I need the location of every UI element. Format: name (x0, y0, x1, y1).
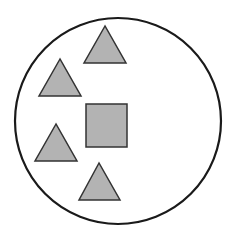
square-shape (86, 104, 127, 147)
diagram-canvas (0, 0, 236, 241)
